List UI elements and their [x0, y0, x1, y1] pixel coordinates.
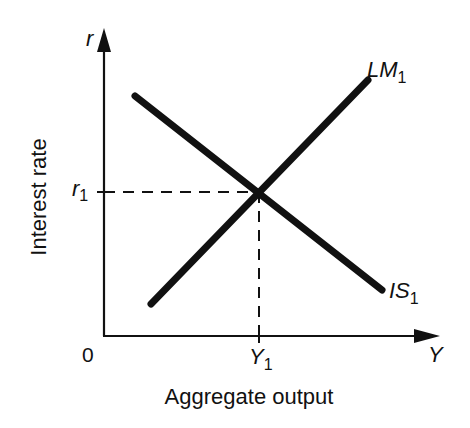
x-axis: Y	[103, 329, 444, 367]
is-curve-label: IS1	[389, 278, 419, 307]
x-axis-arrow-icon	[414, 329, 440, 343]
y-axis-symbol: r	[86, 26, 95, 51]
x-axis-symbol: Y	[428, 342, 444, 367]
y-axis-title: Interest rate	[26, 138, 51, 255]
x-axis-title: Aggregate output	[165, 384, 334, 409]
is-lm-diagram: r Y 0 LM1 IS1 r1 Y1 Aggregate output Int…	[0, 0, 470, 428]
y-axis-arrow-icon	[97, 28, 111, 52]
lm-curve-label: LM1	[367, 57, 407, 86]
y-axis: r	[86, 26, 111, 336]
r1-label: r1	[72, 176, 88, 204]
origin-label: 0	[82, 343, 94, 366]
y1-label: Y1	[249, 344, 273, 373]
